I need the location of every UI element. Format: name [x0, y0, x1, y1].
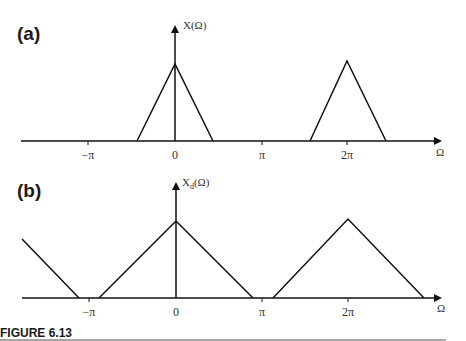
x-axis-label-b: Ω	[437, 302, 445, 314]
spectrum-triangle-a-2pi	[310, 61, 386, 141]
tick-label-a-neg-pi: −π	[82, 148, 95, 162]
figure-canvas: (a) X(Ω) Ω −π 0 π 2π (b) Xd(Ω) Ω −π 0 π …	[0, 0, 466, 341]
tick-label-b-zero: 0	[173, 305, 179, 319]
panel-a-label: (a)	[17, 23, 40, 44]
tick-label-a-pi: π	[259, 148, 265, 162]
figure-caption: FIGURE 6.13	[0, 326, 72, 340]
tick-label-b-neg-pi: −π	[83, 305, 96, 319]
tick-label-b-2pi: 2π	[342, 305, 354, 319]
tick-label-a-2pi: 2π	[341, 148, 353, 162]
x-axis-label-a: Ω	[436, 146, 444, 158]
panel-b-label: (b)	[17, 180, 41, 201]
spectrum-triangle-b-2pi	[273, 219, 424, 298]
tick-label-a-zero: 0	[172, 148, 178, 162]
y-axis-label-b: Xd(Ω)	[182, 176, 210, 191]
spectrum-triangle-b-neg2pi	[22, 239, 79, 298]
panel-b: (b) Xd(Ω) Ω −π 0 π 2π	[17, 176, 445, 319]
tick-label-b-pi: π	[259, 305, 265, 319]
panel-a: (a) X(Ω) Ω −π 0 π 2π	[17, 19, 444, 162]
y-axis-label-a: X(Ω)	[183, 19, 207, 32]
